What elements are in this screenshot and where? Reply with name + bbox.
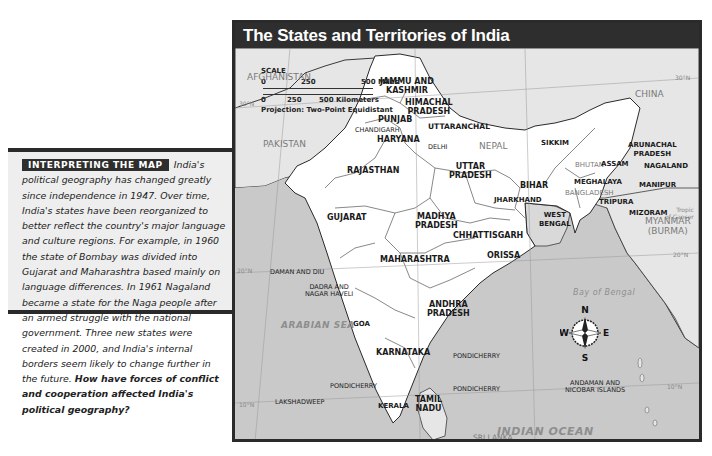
label-arabian-sea: ARABIAN SEA	[281, 320, 355, 330]
label-andaman-nicobar: ANDAMAN ANDNICOBAR ISLANDS	[565, 380, 625, 394]
label-karnataka: KARNATAKA	[376, 348, 430, 357]
label-nagaland: NAGALAND	[644, 162, 688, 171]
label-lat-30-west: 30°N	[239, 100, 254, 107]
label-lat-10-east: 10°N	[667, 383, 682, 390]
compass-e: E	[603, 328, 609, 338]
label-orissa: ORISSA	[487, 251, 520, 260]
label-pondicherry-3: PONDICHERRY	[330, 382, 377, 390]
label-tropic-of-cancer: Tropicof Cancer	[665, 206, 694, 220]
label-chandigarh: CHANDIGARH	[355, 126, 400, 134]
label-chhattisgarh: CHHATTISGARH	[453, 231, 523, 240]
info-body-text: India's political geography has changed …	[22, 159, 225, 384]
label-pondicherry-2: PONDICHERRY	[453, 385, 500, 393]
label-lat-20-west: 20°N	[237, 267, 252, 274]
label-delhi: DELHI	[428, 143, 448, 151]
label-jammu-and-kashmir: JAMMU ANDKASHMIR	[380, 77, 434, 95]
label-pondicherry-1: PONDICHERRY	[453, 352, 500, 360]
label-nepal: NEPAL	[479, 141, 507, 151]
compass-s: S	[582, 353, 588, 363]
compass-rose-icon: N S W E	[560, 303, 610, 363]
label-uttar-pradesh: UTTARPRADESH	[449, 162, 492, 180]
label-afghanistan: AFGHANISTAN	[247, 72, 311, 82]
label-arunachal-pradesh: ARUNACHALPRADESH	[628, 141, 677, 159]
label-tripura: TRIPURA	[599, 198, 633, 207]
label-indian-ocean: INDIAN OCEAN	[497, 425, 594, 438]
label-maharashtra: MAHARASHTRA	[380, 255, 450, 264]
label-daman-and-diu: DAMAN AND DIU	[270, 268, 324, 276]
scale-projection: Projection: Two-Point Equidistant	[261, 106, 393, 114]
interpreting-the-map-box: INTERPRETING THE MAPIndia's political ge…	[8, 148, 233, 314]
map-panel: The States and Territories of India	[232, 20, 702, 442]
label-punjab: PUNJAB	[378, 115, 412, 124]
label-kerala: KERALA	[378, 402, 409, 411]
label-bay-of-bengal: Bay of Bengal	[573, 288, 635, 297]
label-gujarat: GUJARAT	[327, 213, 366, 222]
label-bangladesh: BANGLADESH	[565, 188, 614, 198]
label-tamil-nadu: TAMILNADU	[415, 395, 442, 413]
label-uttaranchal: UTTARANCHAL	[428, 122, 490, 131]
label-jharkhand: JHARKHAND	[494, 196, 542, 205]
label-madhya-pradesh: MADHYAPRADESH	[415, 212, 458, 230]
label-manipur: MANIPUR	[639, 181, 676, 190]
map-title: The States and Territories of India	[235, 23, 699, 48]
scale-km-0: 0	[261, 96, 266, 104]
scale-bar	[263, 88, 373, 95]
interpreting-the-map-tag: INTERPRETING THE MAP	[22, 159, 169, 171]
label-himachal-pradesh: HIMACHALPRADESH	[405, 98, 453, 116]
scale-km-500: 500 Kilometers	[319, 96, 379, 104]
compass-w: W	[560, 328, 569, 338]
label-bihar: BIHAR	[520, 181, 548, 190]
label-haryana: HARYANA	[377, 135, 420, 144]
label-goa: GOA	[353, 320, 370, 329]
label-lat-30-east: 30°N	[675, 74, 690, 81]
label-rajasthan: RAJASTHAN	[347, 166, 399, 175]
label-bhutan: BHUTAN	[575, 160, 604, 170]
label-china: CHINA	[635, 89, 664, 99]
label-mizoram: MIZORAM	[629, 209, 667, 218]
compass-n: N	[581, 305, 589, 315]
label-dadra-nagar-haveli: DADRA ANDNAGAR HAVELI	[305, 284, 353, 298]
label-lat-20-east: 20°N	[673, 251, 688, 258]
label-andhra-pradesh: ANDHRAPRADESH	[427, 300, 470, 318]
label-west-bengal: WESTBENGAL	[539, 211, 571, 229]
label-pakistan: PAKISTAN	[263, 139, 306, 149]
label-meghalaya: MEGHALAYA	[574, 178, 622, 187]
label-lakshadweep: LAKSHADWEEP	[275, 398, 325, 406]
label-sikkim: SIKKIM	[541, 139, 569, 148]
label-assam: ASSAM	[601, 160, 629, 169]
label-lat-10-west: 10°N	[239, 401, 254, 408]
scale-km-250: 250	[287, 96, 302, 104]
